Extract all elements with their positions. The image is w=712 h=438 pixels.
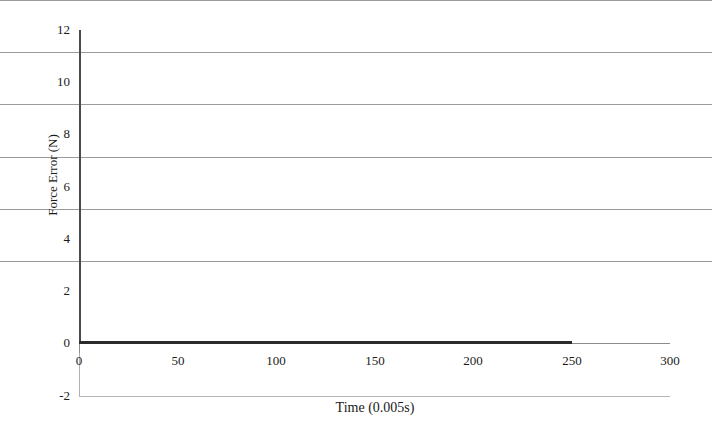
x-axis-title: Time (0.005s)	[235, 400, 515, 416]
chart-figure: 12 10 8 6 4 2 0 -2 0 50 100 150 200 250 …	[0, 0, 712, 438]
y-axis-title: Force Error (N)	[45, 75, 61, 275]
gridline-6	[0, 157, 712, 158]
y-tick-label-12: 12	[0, 22, 70, 38]
x-tick-label-250: 250	[542, 353, 602, 369]
x-axis-tick-zero	[79, 344, 80, 353]
series-force-error	[79, 341, 572, 344]
x-tick-label-200: 200	[443, 353, 503, 369]
y-tick-label-0: 0	[0, 335, 70, 351]
x-tick-label-300: 300	[640, 353, 700, 369]
gridline-4	[0, 209, 712, 210]
x-tick-label-0: 0	[49, 353, 109, 369]
y-tick-label-2: 2	[0, 283, 70, 299]
y-axis-line	[79, 30, 81, 344]
x-tick-label-50: 50	[148, 353, 208, 369]
gridline-2	[0, 261, 712, 262]
x-tick-label-150: 150	[345, 353, 405, 369]
gridline-12	[0, 0, 712, 1]
y-tick-label-minus-2: -2	[0, 388, 70, 404]
x-tick-label-100: 100	[246, 353, 306, 369]
gridline-minus-2	[79, 396, 670, 397]
gridline-8	[0, 104, 712, 105]
gridline-10	[0, 52, 712, 53]
